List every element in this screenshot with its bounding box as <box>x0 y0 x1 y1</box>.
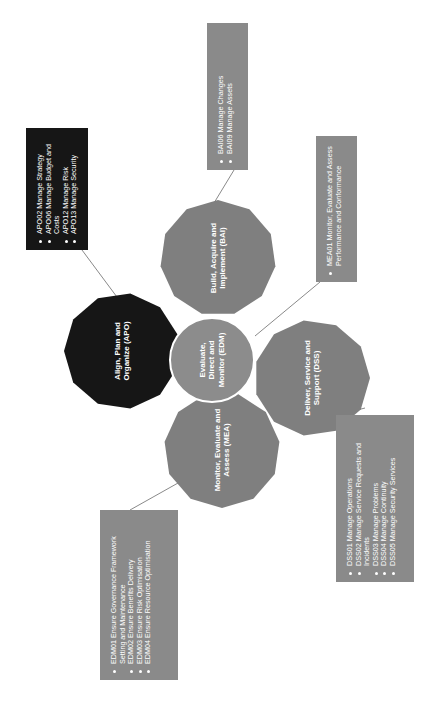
connector-bai <box>214 170 234 203</box>
edm-center-label: Evaluate, Direct and Monitor (EDM) <box>188 330 236 390</box>
dss-node-label: Deliver, Service and Support (DSS) <box>282 333 342 423</box>
mea-process-list: MEA01 Monitor, Evaluate and Assess Perfo… <box>326 142 343 276</box>
dss-process-box: DSS01 Manage Operations DSS02 Manage Ser… <box>336 415 414 582</box>
apo-process-box: APO02 Manage Strategy APO06 Manage Budge… <box>26 128 88 250</box>
edm-process-list: EDM01 Ensure Governance Framework Settin… <box>110 516 153 674</box>
connector-edm <box>130 483 178 510</box>
process-item: EDM04 Ensure Resource Optimisation <box>144 516 153 664</box>
process-item: EDM01 Ensure Governance Framework Settin… <box>110 516 127 664</box>
process-item: MEA01 Monitor, Evaluate and Assess Perfo… <box>326 142 343 266</box>
process-item: BAI09 Manage Assets <box>226 29 235 154</box>
process-item: DSS02 Manage Service Requests and Incide… <box>355 421 372 566</box>
edm-process-box: EDM01 Ensure Governance Framework Settin… <box>100 510 178 680</box>
apo-node-label: Align, Plan and Organize (APO) <box>92 306 152 396</box>
process-item: DSS05 Manage Security Services <box>389 421 398 566</box>
apo-process-list: APO02 Manage Strategy APO06 Manage Budge… <box>36 134 79 244</box>
mea-node-label: Monitor, Evaluate and Assess (MEA) <box>192 405 252 495</box>
bai-node-label: Build, Acquire and Implement (BAI) <box>188 213 248 303</box>
dss-process-list: DSS01 Manage Operations DSS02 Manage Ser… <box>346 421 398 576</box>
cobit-domain-diagram: Align, Plan and Organize (APO) Build, Ac… <box>0 0 426 708</box>
mea-process-box: MEA01 Monitor, Evaluate and Assess Perfo… <box>316 136 357 282</box>
process-item: APO13 Manage Security <box>70 134 79 234</box>
bai-process-box: BAI06 Manage Changes BAI09 Manage Assets <box>207 23 248 170</box>
bai-process-list: BAI06 Manage Changes BAI09 Manage Assets <box>217 29 234 164</box>
process-item: APO06 Manage Budget and Costs <box>45 134 62 234</box>
